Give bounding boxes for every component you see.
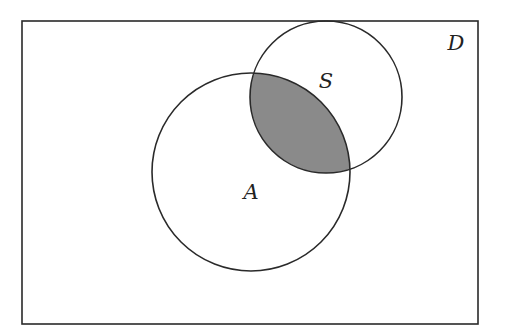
label-A: A bbox=[241, 180, 258, 204]
universe-rect-D bbox=[22, 21, 478, 324]
label-D: D bbox=[447, 31, 465, 55]
venn-diagram: D S A bbox=[0, 0, 506, 334]
label-S: S bbox=[319, 69, 333, 93]
